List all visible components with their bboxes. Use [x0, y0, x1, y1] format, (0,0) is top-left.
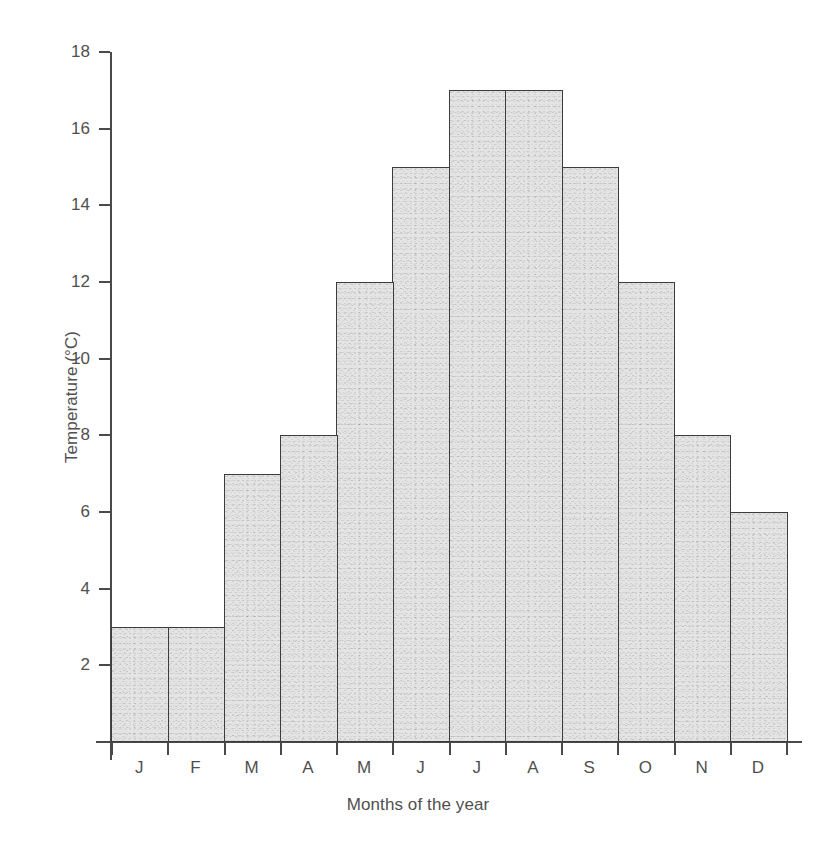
- bar-june[interactable]: [392, 167, 450, 742]
- x-tick-label-april: A: [280, 758, 336, 778]
- y-tick-label: 2: [28, 656, 90, 674]
- y-tick-label-text: 8: [48, 426, 90, 443]
- x-tick-mark: [617, 743, 619, 755]
- bar-july[interactable]: [449, 90, 507, 742]
- bar-april[interactable]: [280, 435, 338, 742]
- y-tick-mark: [99, 588, 110, 590]
- y-tick-label: 16: [28, 120, 90, 138]
- y-tick-label-text: 14: [48, 196, 90, 213]
- x-tick-label-october: O: [617, 758, 673, 778]
- x-tick-label-september: S: [561, 758, 617, 778]
- y-tick-label-text: 18: [48, 43, 90, 60]
- y-tick-label-text: 12: [48, 273, 90, 290]
- y-tick-label: 4: [28, 580, 90, 598]
- x-axis-title: Months of the year: [0, 795, 836, 815]
- bar-march[interactable]: [224, 474, 282, 742]
- y-tick-label: 18: [28, 43, 90, 61]
- bar-chart: Temperature (°C) 24681012141618 JFMAMJJA…: [0, 0, 836, 847]
- y-axis-title: Temperature (°C): [46, 52, 98, 742]
- y-tick-mark: [99, 128, 110, 130]
- x-tick-mark: [167, 743, 169, 755]
- bar-august[interactable]: [505, 90, 563, 742]
- x-tick-label-july: J: [449, 758, 505, 778]
- y-tick-mark: [99, 664, 110, 666]
- bar-december[interactable]: [730, 512, 788, 742]
- bar-january[interactable]: [111, 627, 169, 742]
- x-tick-label-december: D: [730, 758, 786, 778]
- y-tick-label-text: 4: [48, 580, 90, 597]
- x-tick-label-november: N: [674, 758, 730, 778]
- y-tick-label: 12: [28, 273, 90, 291]
- y-tick-label: 6: [28, 503, 90, 521]
- bar-september[interactable]: [561, 167, 619, 742]
- y-tick-mark: [99, 204, 110, 206]
- x-tick-label-june: J: [392, 758, 448, 778]
- x-tick-mark: [674, 743, 676, 755]
- y-tick-mark: [99, 358, 110, 360]
- x-tick-label-january: J: [111, 758, 167, 778]
- bar-may[interactable]: [336, 282, 394, 742]
- x-tick-label-august: A: [505, 758, 561, 778]
- plot-area: [111, 52, 786, 742]
- y-tick-label-text: 16: [48, 120, 90, 137]
- x-tick-mark: [111, 743, 113, 755]
- bar-november[interactable]: [674, 435, 732, 742]
- bar-october[interactable]: [617, 282, 675, 742]
- y-tick-label: 14: [28, 196, 90, 214]
- x-tick-label-february: F: [167, 758, 223, 778]
- x-tick-label-may: M: [336, 758, 392, 778]
- y-tick-mark: [99, 434, 110, 436]
- x-tick-mark: [280, 743, 282, 755]
- y-tick-mark: [99, 51, 110, 53]
- y-tick-label-text: 10: [48, 350, 90, 367]
- y-tick-mark: [99, 281, 110, 283]
- y-tick-label: 10: [28, 350, 90, 368]
- y-tick-mark: [99, 511, 110, 513]
- x-tick-mark: [730, 743, 732, 755]
- x-tick-label-march: M: [224, 758, 280, 778]
- y-tick-label-text: 2: [48, 656, 90, 673]
- y-tick-label-text: 6: [48, 503, 90, 520]
- x-tick-mark: [336, 743, 338, 755]
- x-tick-mark: [449, 743, 451, 755]
- x-tick-mark: [561, 743, 563, 755]
- x-tick-mark: [505, 743, 507, 755]
- x-tick-mark: [224, 743, 226, 755]
- x-tick-mark: [786, 743, 788, 755]
- bar-february[interactable]: [167, 627, 225, 742]
- y-tick-label: 8: [28, 426, 90, 444]
- x-tick-mark: [392, 743, 394, 755]
